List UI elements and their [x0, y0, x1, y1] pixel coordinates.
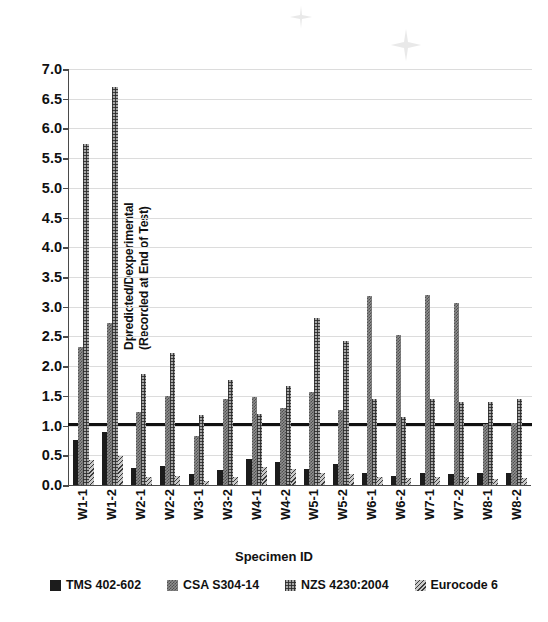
x-tick-label: W1-1	[75, 489, 90, 520]
legend-swatch-icon	[167, 580, 178, 591]
x-tick: W5-1	[299, 487, 328, 549]
x-tick: W1-2	[97, 487, 126, 549]
legend-swatch-icon	[50, 580, 61, 591]
x-axis-tick-labels: W1-1W1-2W2-1W2-2W3-1W3-2W4-1W4-2W5-1W5-2…	[68, 487, 530, 549]
bar-group	[98, 69, 127, 485]
y-tick-label: 5.5	[42, 150, 62, 166]
bar-W3-1-eurocode-6	[204, 481, 209, 485]
y-tick-label: 6.5	[42, 91, 62, 107]
x-tick: W7-1	[415, 487, 444, 549]
x-tick: W7-2	[443, 487, 472, 549]
x-tick-label: W2-1	[133, 489, 148, 520]
x-tick: W8-1	[472, 487, 501, 549]
x-tick-label: W6-1	[364, 489, 379, 520]
x-tick: W2-1	[126, 487, 155, 549]
legend-item-eurocode-6[interactable]: Eurocode 6	[415, 578, 498, 592]
y-tick-label: 6.0	[42, 120, 62, 136]
bar-W7-2-nzs-4230-2004	[459, 402, 464, 485]
bar-group	[502, 69, 531, 485]
x-tick-label: W4-2	[277, 489, 292, 520]
x-tick-label: W6-2	[393, 489, 408, 520]
x-tick-label: W2-2	[162, 489, 177, 520]
bar-groups	[69, 69, 531, 485]
bar-W8-2-nzs-4230-2004	[517, 399, 522, 485]
bar-W5-1-nzs-4230-2004	[314, 318, 319, 485]
bar-W2-2-nzs-4230-2004	[170, 353, 175, 485]
x-tick: W5-2	[328, 487, 357, 549]
bar-group	[329, 69, 358, 485]
x-axis-title: Specimen ID	[0, 549, 548, 564]
x-tick: W3-1	[184, 487, 213, 549]
x-tick: W8-2	[501, 487, 530, 549]
bar-W3-2-nzs-4230-2004	[228, 380, 233, 485]
bar-group	[242, 69, 271, 485]
chart-legend: TMS 402-602CSA S304-14NZS 4230:2004Euroc…	[0, 578, 548, 592]
bar-group	[300, 69, 329, 485]
bar-group	[416, 69, 445, 485]
x-tick-label: W4-1	[248, 489, 263, 520]
bar-W5-1-eurocode-6	[320, 473, 325, 485]
bar-W2-2-eurocode-6	[175, 476, 180, 485]
y-tick-label: 3.5	[42, 269, 62, 285]
bar-group	[185, 69, 214, 485]
bar-W4-1-eurocode-6	[262, 467, 267, 485]
bar-W3-1-nzs-4230-2004	[199, 415, 204, 485]
bar-W7-2-eurocode-6	[464, 477, 469, 485]
legend-label: NZS 4230:2004	[301, 578, 388, 592]
bar-group	[213, 69, 242, 485]
y-tick-label: 1.0	[42, 418, 62, 434]
x-tick: W4-2	[270, 487, 299, 549]
y-tick-label: 4.5	[42, 210, 62, 226]
y-tick-label: 7.0	[42, 61, 62, 77]
bar-group	[387, 69, 416, 485]
legend-swatch-icon	[415, 580, 426, 591]
legend-item-csa-s304-14[interactable]: CSA S304-14	[167, 578, 259, 592]
bar-W6-2-nzs-4230-2004	[401, 417, 406, 485]
y-tick-label: 0.5	[42, 447, 62, 463]
bar-group	[444, 69, 473, 485]
y-axis-tick-labels: 0.00.51.01.52.02.53.03.54.04.55.05.56.06…	[14, 60, 62, 490]
bar-group	[127, 69, 156, 485]
bar-W6-2-eurocode-6	[406, 478, 411, 485]
y-tick-label: 3.0	[42, 299, 62, 315]
x-tick-label: W8-1	[479, 489, 494, 520]
bar-group	[69, 69, 98, 485]
legend-item-nzs-4230-2004[interactable]: NZS 4230:2004	[285, 578, 388, 592]
x-tick-label: W5-2	[335, 489, 350, 520]
bar-W7-1-nzs-4230-2004	[430, 399, 435, 485]
bar-group	[271, 69, 300, 485]
x-tick: W4-1	[241, 487, 270, 549]
plot-area	[68, 69, 531, 486]
bar-chart-figure: 0.00.51.01.52.02.53.03.54.04.55.05.56.06…	[0, 0, 548, 622]
bar-group	[358, 69, 387, 485]
x-tick-label: W1-2	[104, 489, 119, 520]
y-tick-label: 5.0	[42, 180, 62, 196]
bar-W8-1-nzs-4230-2004	[488, 402, 493, 485]
bar-group	[473, 69, 502, 485]
bar-W1-2-eurocode-6	[118, 456, 123, 485]
bar-W5-2-nzs-4230-2004	[343, 341, 348, 485]
bar-W1-1-eurocode-6	[89, 460, 94, 485]
bar-W1-2-nzs-4230-2004	[112, 87, 117, 485]
legend-item-tms-402-602[interactable]: TMS 402-602	[50, 578, 141, 592]
bar-W6-1-eurocode-6	[377, 477, 382, 485]
y-tick-label: 1.5	[42, 388, 62, 404]
legend-label: Eurocode 6	[431, 578, 498, 592]
bar-W1-1-nzs-4230-2004	[83, 144, 88, 485]
x-tick-label: W8-2	[508, 489, 523, 520]
x-tick-label: W5-1	[306, 489, 321, 520]
legend-label: CSA S304-14	[183, 578, 259, 592]
y-tick-label: 4.0	[42, 239, 62, 255]
x-tick-label: W3-1	[190, 489, 205, 520]
y-tick-label: 2.5	[42, 328, 62, 344]
bar-W2-1-nzs-4230-2004	[141, 374, 146, 485]
bar-W4-2-eurocode-6	[291, 469, 296, 485]
x-tick-label: W3-2	[219, 489, 234, 520]
x-tick: W3-2	[212, 487, 241, 549]
bar-W3-2-eurocode-6	[233, 477, 238, 485]
bar-W6-1-nzs-4230-2004	[372, 399, 377, 485]
x-tick-label: W7-1	[421, 489, 436, 520]
legend-swatch-icon	[285, 580, 296, 591]
x-tick: W6-2	[386, 487, 415, 549]
bar-W8-2-eurocode-6	[522, 478, 527, 485]
